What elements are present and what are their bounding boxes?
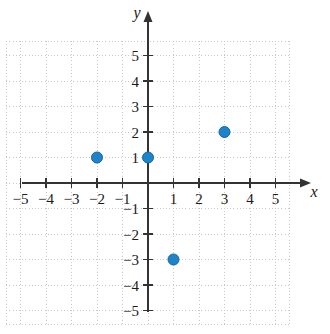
y-axis-tick-label: −2 — [123, 227, 139, 243]
y-axis-tick-label: 3 — [132, 99, 140, 115]
y-axis-label: y — [131, 4, 141, 22]
coordinate-plane-figure: −5−4−3−2−112345 54321−1−2−3−4−5 x y (−2,… — [0, 0, 330, 334]
y-axis-tick-label: 1 — [132, 150, 140, 166]
data-point: (1, −3) — [168, 254, 179, 265]
x-axis-tick-label: 2 — [195, 191, 203, 207]
x-axis-tick-label: −4 — [38, 191, 54, 207]
y-axis-tick-label: −5 — [123, 303, 139, 319]
scatter-plot-svg: −5−4−3−2−112345 54321−1−2−3−4−5 x y (−2,… — [0, 0, 330, 334]
y-axis-tick-label: 2 — [132, 125, 140, 141]
data-point: (−2, 1) — [92, 152, 103, 163]
y-axis-tick-label: 5 — [132, 48, 140, 64]
y-axis-tick-label: 4 — [132, 74, 140, 90]
x-axis-tick-label: −2 — [89, 191, 105, 207]
x-axis-tick-label: 3 — [221, 191, 229, 207]
x-axis-tick-label: 1 — [170, 191, 178, 207]
x-axis-tick-label: −5 — [13, 191, 29, 207]
y-axis-tick-label: −1 — [123, 201, 139, 217]
y-axis-tick-label: −4 — [123, 278, 139, 294]
x-axis-label: x — [309, 183, 317, 200]
x-axis-tick-label: 4 — [246, 191, 254, 207]
plot-background — [0, 0, 330, 334]
x-axis-tick-label: −3 — [64, 191, 80, 207]
x-axis-tick-label: 5 — [272, 191, 280, 207]
y-axis-tick-label: −3 — [123, 252, 139, 268]
data-point: (3, 2) — [219, 127, 230, 138]
data-point: (0, 1) — [143, 152, 154, 163]
